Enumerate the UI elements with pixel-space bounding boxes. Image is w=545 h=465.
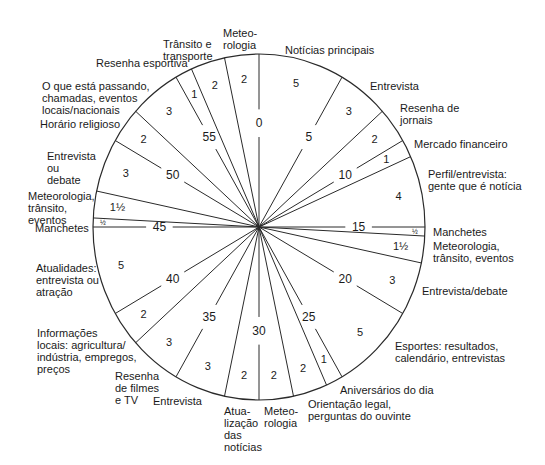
segment-duration: 2 (140, 308, 146, 320)
segment-label: Meteo- rologia (264, 405, 298, 429)
segment-label: O que está passando, chamadas, eventos l… (42, 80, 150, 116)
segment-label: Entrevista (153, 395, 202, 407)
minute-tick-label: 30 (252, 324, 266, 338)
segment-duration: 5 (293, 77, 299, 89)
segment-label: Atualidades: entrevista ou atração (36, 262, 99, 298)
segment-duration: 5 (357, 326, 363, 338)
segment-label: Informações locais: agricultura/ indústr… (37, 327, 137, 375)
segment-duration: 4 (396, 190, 402, 202)
segment-label: Resenha esportiva (96, 57, 188, 69)
segment-duration: 3 (166, 336, 172, 348)
boundary-line (115, 141, 161, 169)
segment-duration: 1 (321, 353, 327, 365)
segment-label: Aniversários do dia (340, 384, 434, 396)
segment-label: Esportes: resultados, calendário, entrev… (395, 340, 505, 364)
segment-duration: 2 (241, 369, 247, 381)
minute-tick-label: 25 (302, 310, 316, 324)
segment-label: Manchetes (35, 222, 89, 234)
segment-label: Entrevista/debate (422, 285, 508, 297)
segment-label: Notícias principais (285, 44, 374, 56)
segment-duration: 3 (205, 360, 211, 372)
boundary-line (184, 182, 259, 227)
segment-duration: 1½ (110, 201, 125, 213)
segment-label: Entrevista ou debate (47, 150, 96, 186)
segment-duration: ½ (412, 228, 418, 235)
segment-label: Perfil/entrevista: gente que é notícia (428, 168, 522, 192)
segment-duration: 3 (166, 105, 172, 117)
segment-duration: 5 (118, 259, 124, 271)
segment-label: Meteorologia, trânsito, eventos (433, 240, 514, 264)
segment-duration: 1 (191, 88, 197, 100)
boundary-line (191, 69, 259, 227)
segment-duration: 3 (123, 167, 129, 179)
boundary-line (315, 77, 342, 125)
segment-label: Entrevista (370, 80, 419, 92)
segment-duration: 2 (212, 79, 218, 91)
boundary-line (259, 227, 302, 305)
boundary-line (115, 286, 161, 314)
boundary-line (259, 227, 327, 385)
minute-tick-label: 50 (166, 168, 180, 182)
segment-duration: 1 (383, 153, 389, 165)
boundary-line (216, 149, 259, 227)
boundary-line (357, 286, 403, 314)
boundary-line (259, 157, 411, 227)
boundary-line (184, 227, 259, 272)
segment-duration: 2 (140, 133, 146, 145)
segment-label: Meteo- rologia (223, 27, 257, 51)
minute-tick-label: 0 (256, 116, 263, 130)
minute-tick-label: 35 (203, 310, 217, 324)
segment-duration: 3 (389, 274, 395, 286)
boundary-line (216, 227, 259, 305)
segment-duration: 3 (346, 105, 352, 117)
segment-duration: 2 (371, 133, 377, 145)
minute-tick-label: 10 (339, 168, 353, 182)
segment-label: Manchetes (433, 226, 487, 238)
segment-label: Resenha de jornais (400, 102, 459, 126)
segment-duration: 1½ (393, 240, 408, 252)
boundary-line (176, 329, 203, 377)
segment-duration: 2 (271, 369, 277, 381)
boundary-line (259, 227, 334, 272)
segment-label: Mercado financeiro (414, 138, 508, 150)
segment-label: Orientação legal, perguntas do ouvinte (308, 398, 411, 422)
minute-tick-label: 5 (305, 130, 312, 144)
segment-duration: ½ (100, 219, 106, 226)
segment-label: Atua- lização das notícias (224, 405, 262, 453)
boundary-line (93, 218, 259, 227)
boundary-line (259, 182, 334, 227)
minute-tick-label: 55 (203, 130, 217, 144)
segment-label: Horário religioso (40, 118, 120, 130)
boundary-line (136, 111, 259, 227)
minute-tick-label: 40 (166, 272, 180, 286)
segment-label: Meteorologia, trânsito, eventos (28, 190, 95, 226)
segment-duration: 2 (241, 73, 247, 85)
boundary-line (136, 227, 259, 343)
boundary-line (259, 111, 382, 227)
boundary-line (259, 227, 425, 236)
segment-duration: 2 (300, 362, 306, 374)
boundary-line (259, 149, 302, 227)
minute-tick-label: 20 (339, 272, 353, 286)
